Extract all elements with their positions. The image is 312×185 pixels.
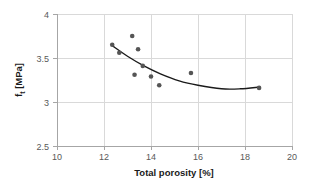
data-point <box>257 86 262 91</box>
y-axis-tick-labels: 4 3.5 3 2.5 <box>36 10 49 152</box>
data-point <box>189 71 194 76</box>
ytick-label-2_5: 2.5 <box>36 142 49 152</box>
data-point <box>140 64 145 69</box>
xtick-label-10: 10 <box>52 152 62 162</box>
ytick-label-4: 4 <box>44 10 49 20</box>
data-point <box>132 72 137 77</box>
y-axis-title-text: ft [MPa] <box>13 63 26 97</box>
data-point <box>117 50 122 55</box>
ytick-label-3_5: 3.5 <box>36 54 49 64</box>
xtick-label-14: 14 <box>146 152 156 162</box>
x-axis-tick-labels: 10 12 14 16 18 20 <box>52 152 297 162</box>
chart-container: 4 3.5 3 2.5 10 12 14 16 18 20 Total poro… <box>0 0 312 185</box>
data-point <box>130 34 135 39</box>
ytick-label-3: 3 <box>44 98 49 108</box>
data-point <box>136 47 141 52</box>
y-axis-title: ft [MPa] <box>13 63 26 97</box>
scatter-plot: 4 3.5 3 2.5 10 12 14 16 18 20 Total poro… <box>0 0 312 185</box>
xtick-label-20: 20 <box>287 152 297 162</box>
xtick-label-16: 16 <box>193 152 203 162</box>
x-axis-title: Total porosity [%] <box>134 167 214 178</box>
xtick-label-12: 12 <box>99 152 109 162</box>
data-point <box>149 74 154 79</box>
x-axis-tickmarks <box>57 146 292 150</box>
data-point <box>110 43 115 48</box>
y-axis-title-unit: [MPa] <box>13 63 24 89</box>
data-point <box>157 83 162 88</box>
xtick-label-18: 18 <box>240 152 250 162</box>
y-axis-tickmarks <box>53 14 57 146</box>
